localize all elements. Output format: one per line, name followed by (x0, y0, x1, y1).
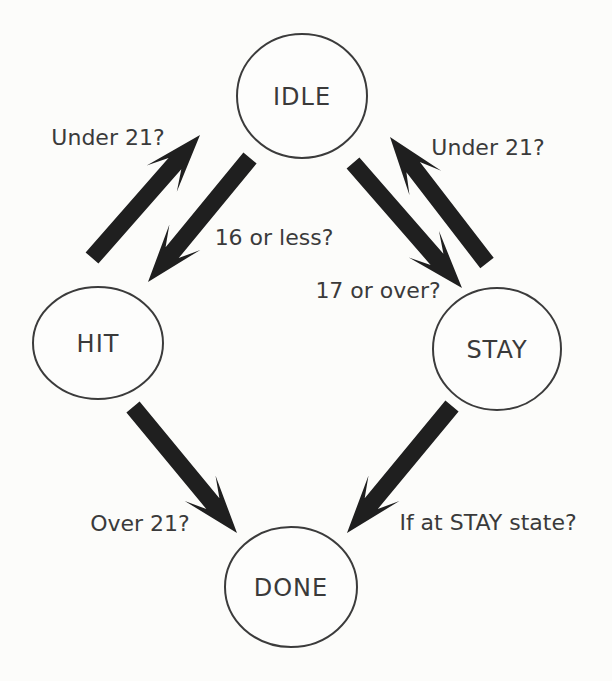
transition-label-hit-to-done: Over 21? (90, 511, 190, 536)
state-label-idle: IDLE (273, 83, 331, 111)
transition-label-idle-to-stay: 17 or over? (315, 278, 440, 303)
state-label-stay: STAY (466, 336, 527, 364)
state-diagram-svg: Under 21?16 or less?17 or over?Under 21?… (0, 0, 612, 681)
transition-label-stay-to-idle: Under 21? (431, 135, 544, 160)
scanned-diagram-page: Under 21?16 or less?17 or over?Under 21?… (0, 0, 612, 681)
transition-label-idle-to-hit: 16 or less? (215, 225, 334, 250)
transition-label-stay-to-done: If at STAY state? (399, 510, 576, 535)
transition-label-hit-to-idle: Under 21? (51, 125, 164, 150)
state-label-done: DONE (254, 574, 329, 602)
state-label-hit: HIT (77, 330, 120, 358)
